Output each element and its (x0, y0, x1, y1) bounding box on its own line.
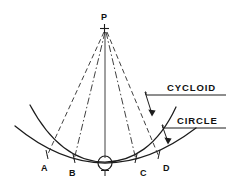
cycloid-circle-figure: P A B C D CYCLOID CIRCLE (0, 0, 228, 185)
cycloid-leader-arrowhead (148, 110, 155, 117)
circle-leader-line (162, 125, 226, 142)
cycloid-curve (30, 105, 176, 162)
curve-label-cycloid: CYCLOID (167, 82, 216, 93)
point-label-d: D (163, 163, 170, 173)
cycloid-leader-line (145, 92, 226, 114)
ray-to-point-a (47, 32, 104, 156)
curve-label-circle: CIRCLE (177, 115, 218, 126)
circle-arc-curve (15, 126, 196, 163)
apex-label-p: P (101, 12, 107, 22)
circle-leader-arrowhead (164, 138, 171, 145)
tick-mark-a (46, 150, 48, 159)
point-label-a: A (41, 163, 48, 173)
apex-plus-icon (100, 24, 109, 33)
point-label-c: C (140, 168, 147, 178)
ray-to-point-b (74, 32, 105, 160)
ray-to-point-c (106, 32, 136, 160)
point-label-b: B (69, 168, 76, 178)
